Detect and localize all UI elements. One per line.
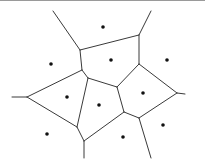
- voronoi-site: [121, 135, 125, 139]
- sites-layer: [45, 25, 169, 139]
- voronoi-edge: [124, 112, 139, 118]
- voronoi-site: [65, 95, 69, 99]
- voronoi-site: [101, 25, 105, 29]
- voronoi-edge: [177, 93, 185, 94]
- voronoi-canvas: [0, 0, 205, 165]
- voronoi-edge: [84, 112, 124, 141]
- voronoi-edge: [139, 64, 177, 93]
- voronoi-edge: [77, 127, 84, 141]
- voronoi-site: [49, 62, 53, 66]
- voronoi-edge: [77, 78, 88, 127]
- voronoi-edge: [139, 11, 151, 35]
- edges-layer: [12, 11, 185, 158]
- voronoi-site: [109, 58, 113, 62]
- voronoi-edge: [139, 93, 177, 118]
- voronoi-edge: [27, 97, 77, 127]
- voronoi-site: [45, 132, 49, 136]
- voronoi-site: [165, 58, 169, 62]
- voronoi-edge: [117, 87, 124, 112]
- voronoi-diagram: [0, 0, 205, 165]
- voronoi-edge: [27, 70, 82, 97]
- voronoi-edge: [82, 70, 88, 78]
- voronoi-edge: [139, 118, 151, 158]
- voronoi-edge: [88, 78, 117, 87]
- voronoi-edge: [80, 50, 82, 70]
- voronoi-edge: [117, 64, 139, 87]
- voronoi-edge: [80, 35, 139, 50]
- voronoi-site: [161, 123, 165, 127]
- voronoi-site: [141, 91, 145, 95]
- voronoi-edge: [53, 11, 80, 50]
- voronoi-site: [97, 103, 101, 107]
